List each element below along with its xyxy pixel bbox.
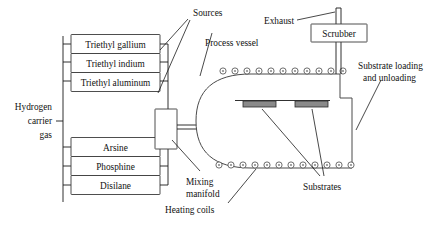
coil <box>328 68 334 74</box>
coil <box>252 162 258 168</box>
hydrogen-label-line2: carrier <box>28 116 53 126</box>
coil <box>280 68 286 74</box>
process-vessel-label: Process vessel <box>205 38 259 48</box>
coil <box>240 162 246 168</box>
coil <box>316 68 322 74</box>
coil <box>336 162 342 168</box>
coil <box>220 68 226 74</box>
process-vessel <box>196 74 352 168</box>
coil <box>292 68 298 74</box>
substrate-bar-1 <box>243 101 276 107</box>
coil <box>304 68 310 74</box>
hydrogen-label-line3: gas <box>40 130 53 140</box>
scrubber-label: Scrubber <box>322 29 356 39</box>
mixing-label-line1: Mixing <box>186 177 214 187</box>
coil <box>276 162 282 168</box>
coil <box>300 162 306 168</box>
substrate-bar-2 <box>295 101 328 107</box>
source-box-phosphine: Phosphine <box>71 157 160 176</box>
heating-coils-top-row <box>220 68 346 74</box>
coil <box>232 68 238 74</box>
source-box-arsine: Arsine <box>71 138 160 157</box>
diagram-canvas: Hydrogen carrier gas Triethyl gallium Tr… <box>0 0 436 225</box>
source-box-disilane: Disilane <box>71 176 160 195</box>
coil <box>264 162 270 168</box>
hydrogen-carrier-bus <box>56 36 71 202</box>
coil <box>216 162 222 168</box>
coil <box>256 68 262 74</box>
mixing-label-line2: manifold <box>186 189 220 199</box>
heating-coils-label: Heating coils <box>165 205 215 215</box>
source-box-triethyl-aluminum: Triethyl aluminum <box>71 73 160 92</box>
coil <box>244 68 250 74</box>
source-box-triethyl-indium: Triethyl indium <box>71 54 160 73</box>
substrate-loading-line2: and unloading <box>363 73 416 83</box>
substrate-loading-label: Substrate loading and unloading <box>358 61 423 83</box>
coil <box>228 162 234 168</box>
substrates-label: Substrates <box>303 182 342 192</box>
substrate-loading-line1: Substrate loading <box>358 61 423 71</box>
coil <box>268 68 274 74</box>
scrubber-unit: Scrubber <box>311 24 367 42</box>
mixing-manifold-label: Mixing manifold <box>186 177 220 199</box>
coil <box>288 162 294 168</box>
source-box-label: Triethyl gallium <box>85 40 146 50</box>
exhaust-label: Exhaust <box>264 16 294 26</box>
source-box-label: Triethyl aluminum <box>81 78 151 88</box>
source-box-label: Disilane <box>100 181 131 191</box>
source-box-label: Triethyl indium <box>86 59 145 69</box>
coil <box>324 162 330 168</box>
source-box-label: Arsine <box>103 143 128 153</box>
source-box-triethyl-gallium: Triethyl gallium <box>71 35 160 54</box>
coil <box>348 162 354 168</box>
sources-label: Sources <box>193 8 223 18</box>
mixing-manifold <box>155 109 177 149</box>
source-box-label: Phosphine <box>96 162 135 172</box>
mocvd-reactor-diagram: Hydrogen carrier gas Triethyl gallium Tr… <box>0 0 436 225</box>
hydrogen-label-line1: Hydrogen <box>15 102 53 112</box>
hydrogen-carrier-gas-label: Hydrogen carrier gas <box>15 102 53 140</box>
